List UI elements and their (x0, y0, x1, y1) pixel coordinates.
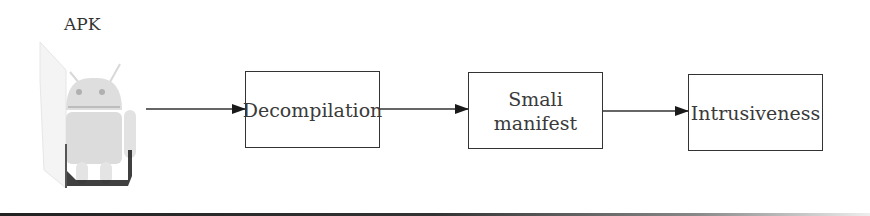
step-intrusiveness: Intrusiveness (688, 74, 823, 151)
step-smali-manifest: Smali manifest (468, 72, 603, 149)
step-label: Decompilation (243, 98, 383, 122)
step-decompilation: Decompilation (245, 71, 380, 148)
step-label-line2: manifest (494, 111, 577, 135)
step-label-line1: Smali (508, 87, 563, 111)
pipeline-diagram: APK Decompilation S (0, 0, 870, 216)
step-label: Intrusiveness (691, 101, 820, 125)
bottom-divider (0, 213, 870, 216)
